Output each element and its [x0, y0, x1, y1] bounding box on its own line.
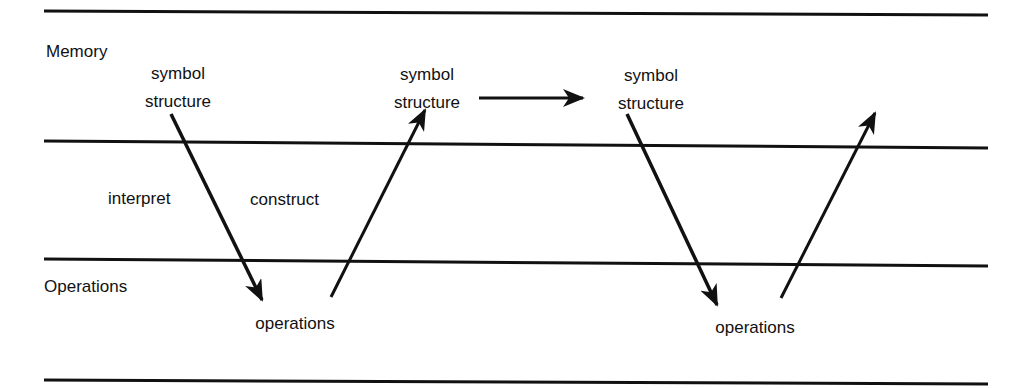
- edge-label-construct: construct: [250, 190, 319, 210]
- arrow-construct-1: [331, 110, 425, 297]
- node-line: symbol: [394, 61, 460, 89]
- row-label-memory: Memory: [46, 42, 107, 62]
- row-label-operations: Operations: [44, 277, 127, 297]
- arrow-construct-2: [781, 113, 875, 298]
- divider-operations-top: [44, 259, 988, 266]
- node-line: structure: [394, 89, 460, 117]
- node-line: symbol: [618, 62, 684, 90]
- node-operations-1: operations: [255, 314, 334, 334]
- node-symbol-structure-3: symbol structure: [618, 62, 684, 118]
- node-line: symbol: [145, 60, 211, 88]
- arrow-interpret-2: [627, 114, 717, 305]
- node-symbol-structure-2: symbol structure: [394, 61, 460, 117]
- edge-label-interpret: interpret: [108, 189, 170, 209]
- divider-top: [44, 11, 988, 15]
- divider-bottom: [44, 380, 988, 384]
- node-line: structure: [145, 88, 211, 116]
- node-symbol-structure-1: symbol structure: [145, 60, 211, 116]
- node-operations-2: operations: [715, 318, 794, 338]
- node-line: structure: [618, 90, 684, 118]
